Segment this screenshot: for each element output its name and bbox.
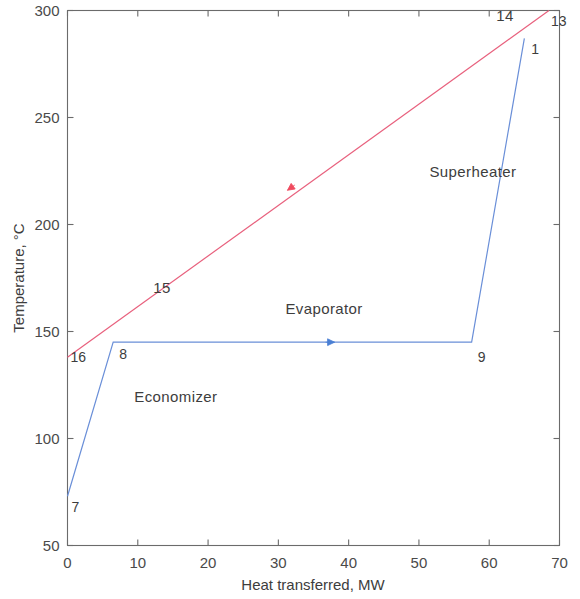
- point-label-16: 16: [71, 349, 87, 365]
- y-tick-label-50: 50: [43, 537, 60, 554]
- point-label-8: 8: [119, 346, 127, 362]
- annotation-evaporator: Evaporator: [285, 300, 362, 317]
- annotation-economizer: Economizer: [134, 388, 217, 405]
- flow-arrows: [286, 182, 335, 345]
- state-point-labels: 78911613: [71, 13, 567, 516]
- x-tick-label-70: 70: [551, 554, 568, 571]
- x-axis-tick-labels: 010203040506070: [63, 554, 568, 571]
- annotation-15: 15: [153, 279, 171, 296]
- x-tick-label-20: 20: [200, 554, 217, 571]
- x-tick-label-60: 60: [481, 554, 498, 571]
- series-line-water-steam: [68, 38, 525, 496]
- annotation-14: 14: [496, 7, 514, 24]
- x-tick-label-30: 30: [270, 554, 287, 571]
- x-tick-label-50: 50: [411, 554, 428, 571]
- y-axis-ticks: [68, 11, 560, 546]
- y-tick-label-200: 200: [34, 216, 59, 233]
- y-tick-label-100: 100: [34, 430, 59, 447]
- plot-frame: [68, 11, 560, 546]
- x-tick-label-0: 0: [63, 554, 71, 571]
- x-axis-title: Heat transferred, MW: [241, 576, 385, 593]
- x-axis-ticks: [68, 11, 560, 546]
- temperature-heat-transfer-chart: 010203040506070 50100150200250300 789116…: [0, 0, 580, 599]
- x-tick-label-40: 40: [340, 554, 357, 571]
- point-label-13: 13: [551, 13, 567, 29]
- y-axis-title: Temperature, °C: [10, 223, 27, 333]
- section-annotations: EconomizerEvaporatorSuperheater1514: [134, 7, 516, 405]
- chart-canvas: 010203040506070 50100150200250300 789116…: [0, 0, 580, 599]
- flue-gas-flow-arrow: [286, 182, 297, 193]
- point-label-9: 9: [478, 349, 486, 365]
- annotation-superheater: Superheater: [429, 163, 516, 180]
- y-tick-label-150: 150: [34, 323, 59, 340]
- y-tick-label-250: 250: [34, 109, 59, 126]
- data-series-group: [68, 11, 549, 497]
- evaporator-flow-arrow: [326, 339, 335, 346]
- point-label-1: 1: [531, 41, 539, 57]
- point-label-7: 7: [72, 499, 80, 515]
- x-tick-label-10: 10: [129, 554, 146, 571]
- y-axis-tick-labels: 50100150200250300: [34, 2, 59, 554]
- y-tick-label-300: 300: [34, 2, 59, 19]
